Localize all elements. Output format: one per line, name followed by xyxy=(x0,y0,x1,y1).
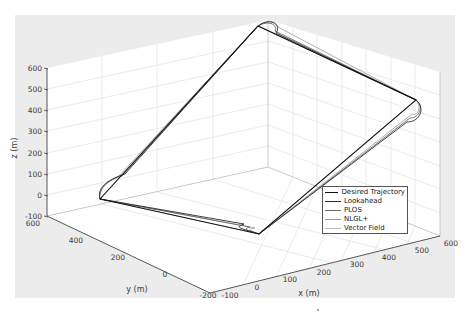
svg-text:0: 0 xyxy=(37,191,42,200)
svg-text:200: 200 xyxy=(111,253,126,262)
svg-text:0: 0 xyxy=(163,270,168,279)
legend: Desired Trajectory Lookahead PLOS NLGL+ … xyxy=(322,186,408,234)
svg-text:300: 300 xyxy=(350,260,365,269)
svg-text:600: 600 xyxy=(28,64,43,73)
legend-item-vector-field: Vector Field xyxy=(325,224,405,233)
legend-swatch-plos xyxy=(325,210,341,211)
svg-text:200: 200 xyxy=(317,268,332,277)
svg-text:400: 400 xyxy=(28,106,43,115)
plot-canvas: 600 500 400 300 200 100 0 -100 z (m) -20… xyxy=(0,0,474,316)
z-axis-label: z (m) xyxy=(10,138,19,159)
legend-swatch-nlgl xyxy=(325,219,341,220)
svg-text:-100: -100 xyxy=(221,291,238,300)
legend-swatch-lookahead xyxy=(325,201,341,202)
svg-text:200: 200 xyxy=(28,149,43,158)
legend-item-plos: PLOS xyxy=(325,206,405,215)
stray-dot xyxy=(317,309,319,311)
legend-swatch-vector-field xyxy=(325,228,341,229)
svg-text:-200: -200 xyxy=(199,291,216,300)
y-axis-label: y (m) xyxy=(126,285,147,294)
svg-text:100: 100 xyxy=(283,275,298,284)
svg-text:400: 400 xyxy=(69,236,84,245)
svg-text:300: 300 xyxy=(28,127,43,136)
legend-item-nlgl: NLGL+ xyxy=(325,215,405,224)
svg-text:500: 500 xyxy=(415,246,430,255)
svg-text:100: 100 xyxy=(28,170,43,179)
svg-text:600: 600 xyxy=(26,219,41,228)
svg-text:500: 500 xyxy=(28,85,43,94)
legend-item-lookahead: Lookahead xyxy=(325,197,405,206)
svg-text:600: 600 xyxy=(444,239,459,248)
legend-swatch-desired xyxy=(325,192,338,193)
svg-text:400: 400 xyxy=(382,253,397,262)
x-axis-label: x (m) xyxy=(298,289,319,298)
legend-item-desired-trajectory: Desired Trajectory xyxy=(325,188,405,197)
trajectory-3d-figure: 600 500 400 300 200 100 0 -100 z (m) -20… xyxy=(0,0,474,316)
svg-text:0: 0 xyxy=(255,283,260,292)
